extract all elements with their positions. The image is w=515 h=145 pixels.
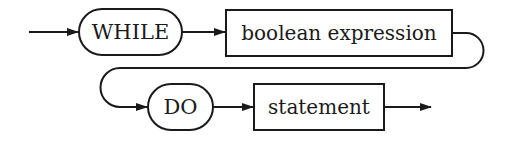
do-keyword-label: DO — [148, 84, 213, 130]
statement-label: statement — [254, 84, 384, 130]
boolean-expression-label: boolean expression — [226, 10, 452, 56]
while-keyword-label: WHILE — [79, 9, 182, 55]
